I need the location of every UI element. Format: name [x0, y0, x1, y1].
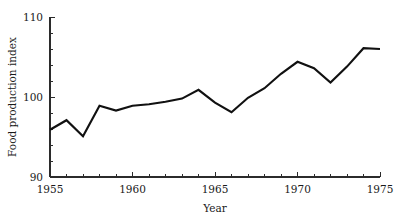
y-tick-label: 100: [23, 91, 43, 103]
y-axis-title: Food production index: [6, 37, 18, 157]
y-tick-label: 90: [30, 171, 43, 183]
x-tick-label: 1975: [367, 183, 394, 195]
x-axis-title: Year: [202, 202, 227, 214]
x-tick-label: 1965: [202, 183, 229, 195]
chart-figure: 90100110 19551960196519701975 Year Food …: [0, 0, 416, 223]
x-tick-label: 1960: [119, 183, 146, 195]
y-tick-label: 110: [23, 11, 43, 23]
y-axis-major-ticks: [50, 17, 55, 177]
x-tick-label: 1970: [284, 183, 311, 195]
data-series-line-food-production-index: [50, 48, 380, 136]
x-tick-label: 1955: [37, 183, 64, 195]
line-chart-plot: 90100110 19551960196519701975 Year Food …: [0, 0, 416, 223]
x-axis-tick-labels: 19551960196519701975: [37, 183, 394, 195]
y-axis-tick-labels: 90100110: [23, 11, 43, 183]
